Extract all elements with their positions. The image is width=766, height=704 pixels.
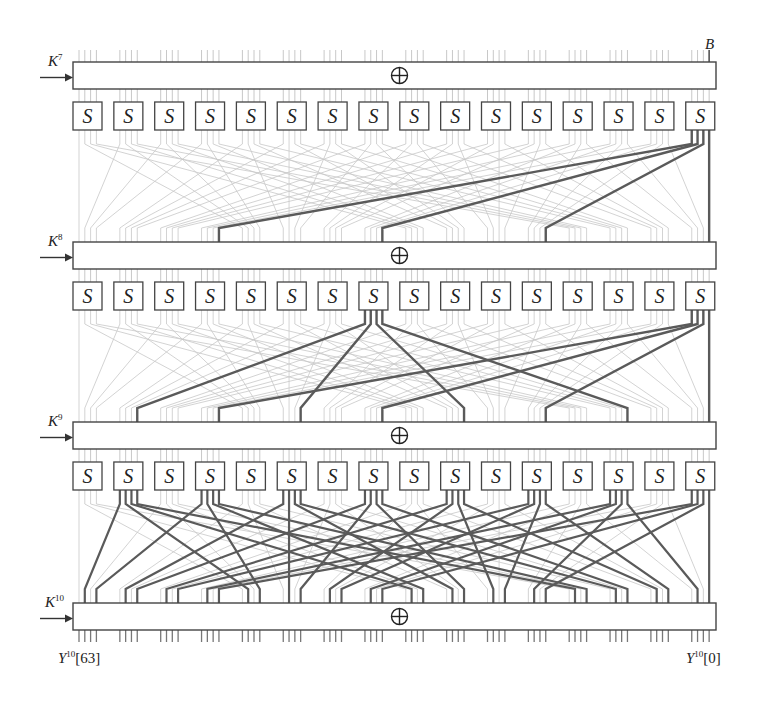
sbox-label: S (246, 465, 256, 487)
sbox-label: S (123, 465, 133, 487)
output-label-right: Y10[0] (686, 650, 721, 667)
sbox-label: S (695, 105, 705, 127)
arrow-head-icon (65, 254, 73, 262)
wire (342, 130, 622, 242)
wire (85, 310, 243, 422)
sbox-label: S (328, 465, 338, 487)
sbox-label: S (532, 285, 542, 307)
arrow-head-icon (65, 434, 73, 442)
sbox-label: S (328, 105, 338, 127)
sbox-label: S (573, 285, 583, 307)
wire (167, 130, 447, 242)
sbox-label: S (695, 465, 705, 487)
sbox-label: S (164, 465, 174, 487)
sbox-label: S (368, 465, 378, 487)
sbox-label: S (164, 105, 174, 127)
sbox-label: S (532, 105, 542, 127)
wire (167, 310, 447, 422)
key-label-k10: K10 (45, 594, 64, 611)
wire (96, 130, 569, 242)
sbox-label: S (573, 465, 583, 487)
key-label-k8: K8 (48, 233, 63, 250)
sbox-label: S (205, 105, 215, 127)
sbox-label: S (409, 465, 419, 487)
sbox-label: S (532, 465, 542, 487)
sbox-label: S (287, 105, 297, 127)
sbox-label: S (123, 285, 133, 307)
arrow-head-icon (65, 74, 73, 82)
wire (342, 310, 622, 422)
output-label-left: Y10[63] (58, 650, 100, 667)
sbox-label: S (368, 105, 378, 127)
wire (342, 490, 622, 603)
sbox-label: S (614, 285, 624, 307)
active-wire (219, 130, 692, 242)
sbox-label: S (123, 105, 133, 127)
sbox-label: S (83, 465, 93, 487)
sbox-label: S (409, 105, 419, 127)
sbox-label: S (450, 105, 460, 127)
sbox-label: S (491, 285, 501, 307)
sbox-label: S (287, 465, 297, 487)
sbox-label: S (614, 105, 624, 127)
sbox-label: S (573, 105, 583, 127)
label-B: B (705, 36, 714, 53)
sbox-label: S (409, 285, 419, 307)
sbox-label: S (83, 105, 93, 127)
wire (96, 310, 569, 422)
sbox-label: S (368, 285, 378, 307)
sbox-label: S (328, 285, 338, 307)
sbox-label: S (695, 285, 705, 307)
sbox-label: S (654, 465, 664, 487)
key-label-k9: K9 (48, 413, 63, 430)
sbox-label: S (450, 285, 460, 307)
sbox-label: S (164, 285, 174, 307)
sbox-label: S (491, 465, 501, 487)
cipher-trail-diagram: SSSSSSSSSSSSSSSSSSSSSSSSSSSSSSSSSSSSSSSS… (0, 0, 766, 704)
sbox-label: S (491, 105, 501, 127)
sbox-label: S (614, 465, 624, 487)
arrow-head-icon (65, 615, 73, 623)
wire (85, 130, 243, 242)
sbox-label: S (246, 285, 256, 307)
sbox-label: S (654, 105, 664, 127)
sbox-label: S (450, 465, 460, 487)
sbox-label: S (205, 465, 215, 487)
sbox-label: S (287, 285, 297, 307)
sbox-label: S (246, 105, 256, 127)
key-label-k7: K7 (48, 53, 63, 70)
sbox-label: S (83, 285, 93, 307)
sbox-label: S (654, 285, 664, 307)
sbox-label: S (205, 285, 215, 307)
